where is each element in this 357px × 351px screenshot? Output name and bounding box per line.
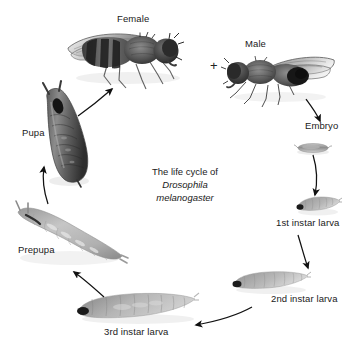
stage-label-third-instar-larva: 3rd instar larva (104, 326, 168, 337)
fruit-fly-male-photo (222, 52, 340, 112)
first-to-second-instar-arrow (298, 235, 308, 268)
stage-label-embryo: Embryo (305, 120, 338, 131)
prepupa-photo (8, 196, 130, 272)
stage-label-female: Female (117, 13, 149, 24)
figure-caption: The life cycle of Drosophila melanogaste… (125, 165, 245, 204)
stage-label-pupa: Pupa (22, 127, 45, 138)
stage-label-second-instar-larva: 2nd instar larva (271, 293, 338, 304)
embryo-to-first-instar-arrow (313, 155, 317, 195)
stage-label-male: Male (245, 38, 266, 49)
stage-label-prepupa: Prepupa (18, 244, 55, 255)
caption-species: melanogaster (125, 191, 245, 204)
drosophila-life-cycle-figure: Female Male Embryo 1st instar larva 2nd … (0, 0, 357, 351)
third-instar-larva-photo (74, 288, 200, 328)
first-instar-larva-photo (293, 192, 343, 218)
embryo-egg-photo (293, 140, 333, 158)
caption-line-1: The life cycle of (152, 166, 218, 177)
mating-plus-symbol: + (210, 59, 218, 72)
stage-label-first-instar-larva: 1st instar larva (276, 217, 339, 228)
caption-genus: Drosophila (125, 178, 245, 191)
second-to-third-instar-arrow (196, 307, 252, 325)
